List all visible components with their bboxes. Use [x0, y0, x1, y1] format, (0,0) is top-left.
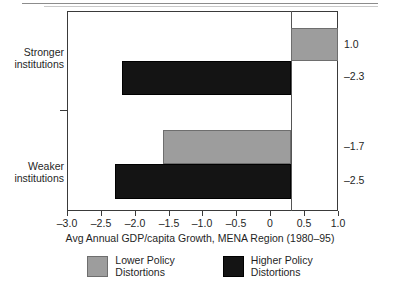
scan-line-secondary: [44, 6, 378, 7]
legend-label-line1: Lower Policy: [115, 255, 175, 267]
x-axis-tick-mark: [236, 211, 237, 216]
scan-line-top: [22, 3, 378, 4]
x-axis-title: Avg Annual GDP/capita Growth, MENA Regio…: [0, 232, 400, 244]
x-axis-tick-label: –1.5: [152, 217, 186, 229]
y-category-label-stronger-line1: Stronger: [2, 46, 64, 58]
x-axis-tick-mark: [101, 211, 102, 216]
x-axis-tick-label: –0.5: [219, 217, 253, 229]
category-separator-tick: [60, 110, 68, 111]
legend-item: Lower PolicyDistortions: [87, 255, 175, 278]
y-category-label-stronger-line2: institutions: [2, 58, 64, 70]
bar: [122, 61, 291, 95]
bar: [163, 130, 291, 164]
legend-label: Lower PolicyDistortions: [115, 255, 175, 278]
x-axis-tick-mark: [169, 211, 170, 216]
x-axis-tick-mark: [270, 211, 271, 216]
chart-legend: Lower PolicyDistortionsHigher PolicyDist…: [0, 255, 400, 278]
y-category-label-weaker-line2: institutions: [2, 172, 64, 184]
bar-value-label: –1.7: [344, 140, 364, 152]
x-axis-tick-label: 0: [253, 217, 287, 229]
x-axis-tick-mark: [304, 211, 305, 216]
bar-value-label: –2.5: [344, 174, 364, 186]
bar: [115, 164, 291, 199]
y-category-label-weaker: Weaker institutions: [2, 160, 64, 184]
bar-value-label: 1.0: [344, 38, 359, 50]
legend-label-line2: Distortions: [251, 267, 313, 279]
legend-swatch-black: [223, 256, 244, 277]
x-axis-tick-label: 1.0: [321, 217, 355, 229]
legend-swatch-gray: [87, 256, 108, 277]
x-axis-tick-label: 0.5: [287, 217, 321, 229]
legend-label-line1: Higher Policy: [251, 255, 313, 267]
x-axis-tick-mark: [67, 211, 68, 216]
legend-item: Higher PolicyDistortions: [223, 255, 313, 278]
x-axis-tick-label: –2.5: [84, 217, 118, 229]
legend-label: Higher PolicyDistortions: [251, 255, 313, 278]
y-category-label-weaker-line1: Weaker: [2, 160, 64, 172]
x-axis-tick-label: –1.0: [185, 217, 219, 229]
y-category-label-stronger: Stronger institutions: [2, 46, 64, 70]
bar: [291, 28, 338, 61]
x-axis-tick-label: –2.0: [118, 217, 152, 229]
legend-label-line2: Distortions: [115, 267, 175, 279]
bar-value-label: –2.3: [344, 70, 364, 82]
x-axis-tick-label: –3.0: [50, 217, 84, 229]
x-axis-tick-mark: [338, 211, 339, 216]
x-axis-tick-mark: [202, 211, 203, 216]
chart-figure: Stronger institutions Weaker institution…: [0, 0, 400, 296]
x-axis-tick-mark: [135, 211, 136, 216]
